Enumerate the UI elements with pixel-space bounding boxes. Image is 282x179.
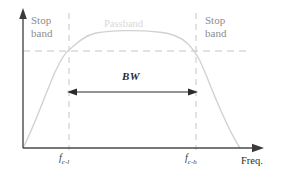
bandpass-filter-figure: Stop band Stop band Passband BW fc-l fc-… [0, 0, 282, 179]
cutoff-high-tick-subscript: c-h [188, 158, 197, 166]
x-axis-label: Freq. [241, 155, 263, 167]
cutoff-low-tick-subscript: c-l [62, 158, 69, 166]
passband-label: Passband [104, 18, 143, 30]
stop-band-label-left-line2: band [31, 27, 52, 40]
stop-band-label-left: Stop band [31, 14, 52, 39]
y-axis-arrowhead-icon [19, 8, 27, 19]
filter-response-curve [23, 31, 240, 148]
cutoff-low-tick-label: fc-l [59, 152, 69, 166]
x-axis-arrowhead-icon [252, 144, 264, 152]
bandwidth-label: BW [122, 70, 140, 83]
stop-band-label-right-line1: Stop [205, 14, 225, 26]
stop-band-label-left-line1: Stop [31, 14, 51, 26]
cutoff-high-tick-label: fc-h [185, 152, 197, 166]
stop-band-label-right: Stop band [205, 14, 226, 39]
stop-band-label-right-line2: band [205, 27, 226, 40]
